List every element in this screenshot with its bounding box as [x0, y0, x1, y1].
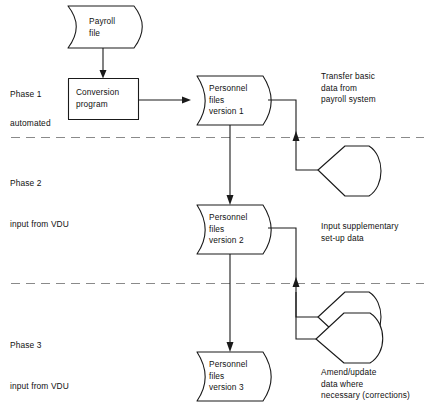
arrowhead-payroll-to-conversion: [100, 70, 107, 79]
phase-label-3: Phase 3: [10, 340, 42, 352]
arrowhead-v2-to-v3: [227, 342, 234, 352]
flowchart-canvas: [0, 0, 429, 416]
arrowhead-display-transfer-up: [293, 131, 300, 141]
arrowhead-v1-to-v2: [227, 195, 234, 205]
note-input-supplementary: Input supplementary set-up data: [321, 221, 398, 244]
node-label-conversion-program: Conversion program: [76, 87, 119, 110]
note-transfer-basic-data: Transfer basic data from payroll system: [321, 71, 376, 106]
node-label-personnel-files-version-1: Personnel files version 1: [209, 83, 247, 118]
node-label-personnel-files-version-2: Personnel files version 2: [209, 212, 247, 247]
node-label-personnel-files-version-3: Personnel files version 3: [209, 359, 247, 394]
node-label-payroll-file: Payroll file: [89, 16, 115, 39]
phase-label-1: Phase 1: [10, 89, 42, 101]
phase-mode-2: input from VDU: [10, 219, 69, 231]
connector-display-amend-up: [296, 292, 316, 339]
phase-mode-1: automated: [10, 118, 51, 130]
phase-mode-3: input from VDU: [10, 381, 69, 393]
arrowhead-conversion-to-v1: [182, 97, 191, 104]
phase-label-2: Phase 2: [10, 178, 42, 190]
node-display-transfer: [318, 146, 381, 196]
arrowhead-display-supplementary-up: [293, 277, 300, 287]
connector-v2-to-display-supplementary: [268, 228, 318, 317]
connector-v1-to-display-transfer: [268, 100, 318, 170]
flowchart-diagram: Payroll file Conversion program Personne…: [0, 0, 429, 416]
note-amend-update: Amend/update data where necessary (corre…: [321, 367, 410, 402]
